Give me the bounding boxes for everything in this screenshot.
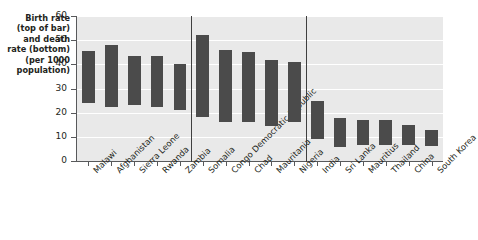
x-axis-tick-12 [363,162,364,166]
x-axis-tick-14 [409,162,410,166]
y-axis-tick-label-40: 40 [21,58,67,68]
gridline-20 [77,113,443,114]
x-axis-tick-4 [180,162,181,166]
bar-china [402,125,415,146]
group-separator-2 [306,16,307,162]
y-axis-tick-label-30: 30 [21,83,67,93]
bar-zambia [174,64,187,110]
bar-sierra-leone [128,56,141,106]
y-axis-tick-10 [71,137,76,138]
x-axis-tick-9 [294,162,295,166]
y-axis-tick-label-10: 10 [21,131,67,141]
x-axis-tick-1 [111,162,112,166]
x-axis-tick-7 [249,162,250,166]
y-axis-tick-label-0: 0 [21,155,67,165]
bar-south-korea [425,130,438,147]
x-axis-tick-0 [88,162,89,166]
y-axis-tick-0 [71,161,76,162]
bar-thailand [379,120,392,145]
x-axis-tick-3 [157,162,158,166]
x-axis-tick-11 [340,162,341,166]
bar-india [311,101,324,140]
y-axis-tick-40 [71,64,76,65]
bar-malawi [82,51,95,103]
x-axis-tick-6 [226,162,227,166]
y-axis-tick-20 [71,113,76,114]
y-axis-tick-label-50: 50 [21,34,67,44]
x-axis-tick-8 [271,162,272,166]
y-axis-tick-30 [71,89,76,90]
y-axis-line [76,16,77,162]
bar-mauritius [357,120,370,145]
y-axis-tick-50 [71,40,76,41]
x-axis-tick-13 [386,162,387,166]
x-axis-tick-5 [203,162,204,166]
gridline-50 [77,40,443,41]
gridline-60 [77,16,443,17]
bar-chad [242,52,255,122]
bar-sri-lanka [334,118,347,147]
bar-congo-democratic-republic [219,50,232,123]
bar-mauritania [265,60,278,126]
x-axis-tick-10 [317,162,318,166]
bar-nigeria [288,62,301,122]
y-axis-tick-label-60: 60 [21,10,67,20]
bar-afghanistan [105,45,118,107]
x-axis-tick-15 [432,162,433,166]
bar-rwanda [151,56,164,107]
bar-somalia [196,35,209,117]
y-axis-tick-60 [71,16,76,17]
group-separator-1 [191,16,192,162]
x-axis-tick-2 [134,162,135,166]
y-axis-tick-label-20: 20 [21,107,67,117]
